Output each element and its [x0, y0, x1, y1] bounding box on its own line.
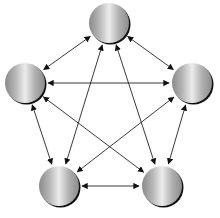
- diagram-canvas: [0, 0, 220, 218]
- edge-right-bottom-right: [168, 105, 185, 164]
- edge-top-bottom-right: [116, 45, 155, 164]
- node-layer: [5, 3, 214, 208]
- edge-left-bottom-right: [43, 97, 143, 172]
- edge-top-right: [128, 36, 174, 69]
- edge-right-bottom-left: [77, 97, 174, 172]
- edge-top-bottom-left: [66, 45, 103, 164]
- sphere-node: [89, 3, 129, 43]
- sphere-node: [5, 63, 45, 103]
- network-diagram: [0, 0, 220, 218]
- sphere-node: [172, 63, 212, 103]
- edge-top-left: [44, 36, 91, 69]
- node-bottom-left: [39, 166, 81, 208]
- sphere-node: [142, 166, 182, 206]
- node-right: [172, 63, 214, 105]
- edge-layer: [32, 36, 185, 186]
- edge-left-bottom-left: [32, 105, 52, 164]
- node-left: [5, 63, 47, 105]
- sphere-node: [39, 166, 79, 206]
- node-bottom-right: [142, 166, 184, 208]
- node-top: [89, 3, 131, 45]
